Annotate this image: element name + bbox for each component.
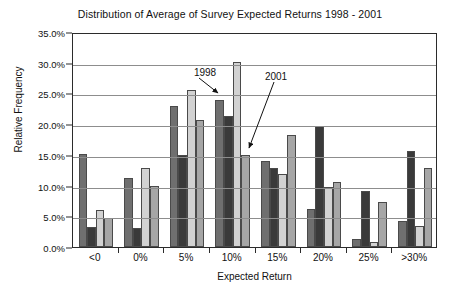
bar [241, 155, 250, 247]
gridline [73, 188, 436, 189]
bar [398, 221, 407, 247]
chart-container: Distribution of Average of Survey Expect… [0, 0, 460, 299]
gridline [73, 218, 436, 219]
bar [287, 135, 296, 247]
x-tick-mark [118, 248, 119, 253]
bar [178, 155, 187, 247]
bar [215, 100, 224, 247]
bar [196, 120, 205, 247]
bar [104, 218, 113, 247]
x-axis-title: Expected Return [72, 271, 437, 282]
bar [370, 242, 379, 247]
bar [315, 126, 324, 247]
y-axis-title: Relative Frequency [13, 10, 24, 210]
annotation-label: 1998 [194, 67, 216, 78]
bar [133, 228, 142, 247]
plot-area [72, 33, 437, 248]
bar [224, 116, 233, 247]
bar [307, 209, 316, 247]
bar [407, 151, 416, 247]
x-tick-mark [346, 248, 347, 253]
bar [261, 161, 270, 247]
y-tick-label: 10.0% [1, 181, 65, 192]
y-tick-label: 5.0% [1, 212, 65, 223]
y-tick-label: 15.0% [1, 150, 65, 161]
bar [79, 154, 88, 247]
gridline [73, 157, 436, 158]
x-axis: <00%5%10%15%20%25%>30% [72, 252, 437, 270]
bar [87, 227, 96, 247]
gridline [73, 65, 436, 66]
bar [424, 168, 433, 247]
bar [96, 210, 105, 247]
bar [187, 90, 196, 247]
x-tick-mark [163, 248, 164, 253]
bar [415, 226, 424, 248]
y-tick-label: 0.0% [1, 243, 65, 254]
bar [352, 239, 361, 247]
gridline [73, 126, 436, 127]
bar [324, 187, 333, 247]
gridline [73, 95, 436, 96]
y-axis: 0.0%5.0%10.0%15.0%20.0%25.0%30.0%35.0% [0, 0, 70, 299]
bar [278, 174, 287, 247]
x-tick-mark [255, 248, 256, 253]
bar [150, 186, 159, 247]
bar [333, 182, 342, 247]
bar [141, 168, 150, 247]
x-tick-mark [209, 248, 210, 253]
x-tick-label: >30% [384, 252, 444, 263]
annotation-label: 2001 [265, 71, 287, 82]
y-tick-label: 35.0% [1, 28, 65, 39]
bar [378, 202, 387, 247]
y-tick-label: 25.0% [1, 89, 65, 100]
y-tick-label: 30.0% [1, 58, 65, 69]
bar [270, 168, 279, 247]
bar-layer [73, 34, 436, 247]
x-tick-mark [391, 248, 392, 253]
y-tick-label: 20.0% [1, 120, 65, 131]
x-tick-mark [300, 248, 301, 253]
